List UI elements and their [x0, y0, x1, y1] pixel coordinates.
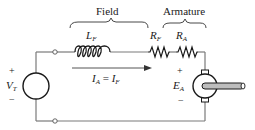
voltage-source: [23, 73, 49, 99]
source-plus: +: [9, 66, 15, 76]
circuit-schematic: [0, 0, 255, 130]
field-resistor-label: RF: [150, 30, 161, 43]
field-brace: [70, 18, 148, 28]
motor-emf-label: EA: [173, 80, 184, 93]
series-dc-motor-circuit: Field Armature LF RF RA IA = IF + VT − +…: [0, 0, 255, 130]
field-label: Field: [96, 6, 119, 17]
armature-resistor: [176, 47, 198, 57]
motor-plus: +: [177, 66, 183, 76]
motor-minus: −: [178, 96, 184, 106]
field-resistor: [148, 47, 170, 57]
terminal-top: [53, 50, 57, 54]
armature-label: Armature: [163, 6, 205, 17]
current-label: IA = IF: [92, 73, 120, 86]
terminal-bottom: [53, 119, 57, 123]
current-arrow: [72, 65, 152, 71]
field-inductor: [75, 46, 110, 57]
dc-motor: [193, 70, 245, 102]
armature-resistor-label: RA: [176, 30, 187, 43]
source-minus: −: [9, 95, 15, 105]
source-label: VT: [6, 80, 17, 93]
motor-shaft: [202, 83, 244, 89]
field-inductor-label: LF: [86, 30, 96, 43]
armature-brace: [163, 19, 206, 28]
